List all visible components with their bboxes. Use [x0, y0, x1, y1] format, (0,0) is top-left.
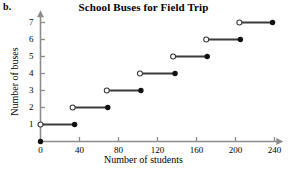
chart-figure: b. School Buses for Field Trip Number of… [0, 0, 287, 170]
y-tick-label: 6 [20, 34, 34, 44]
y-tick-label: 3 [20, 85, 34, 95]
closed-endpoint-4 [172, 71, 177, 76]
x-tick-label: 160 [183, 145, 211, 155]
x-tick-label: 80 [105, 145, 133, 155]
x-tick-label: 40 [66, 145, 94, 155]
open-endpoint-4 [137, 71, 142, 76]
closed-endpoint-2 [105, 105, 110, 110]
x-tick-label: 120 [144, 145, 172, 155]
y-axis-title: Number of buses [9, 27, 20, 137]
x-tick-label: 240 [261, 145, 288, 155]
open-endpoint-7 [237, 20, 242, 25]
origin-point [38, 139, 43, 144]
y-tick-label: 5 [20, 51, 34, 61]
x-axis-title: Number of students [0, 154, 287, 165]
x-tick-label: 0 [27, 145, 55, 155]
open-endpoint-2 [70, 105, 75, 110]
closed-endpoint-7 [270, 20, 275, 25]
y-tick-label: 7 [20, 17, 34, 27]
closed-endpoint-1 [72, 122, 77, 127]
open-endpoint-5 [171, 54, 176, 59]
y-tick-label: 1 [20, 119, 34, 129]
y-tick-label: 2 [20, 102, 34, 112]
open-endpoint-6 [204, 37, 209, 42]
closed-endpoint-3 [138, 88, 143, 93]
open-endpoint-1 [38, 122, 43, 127]
y-axis-arrow [37, 10, 44, 17]
y-tick-label: 4 [20, 68, 34, 78]
x-tick-label: 200 [222, 145, 250, 155]
closed-endpoint-5 [205, 54, 210, 59]
open-endpoint-3 [104, 88, 109, 93]
closed-endpoint-6 [238, 37, 243, 42]
